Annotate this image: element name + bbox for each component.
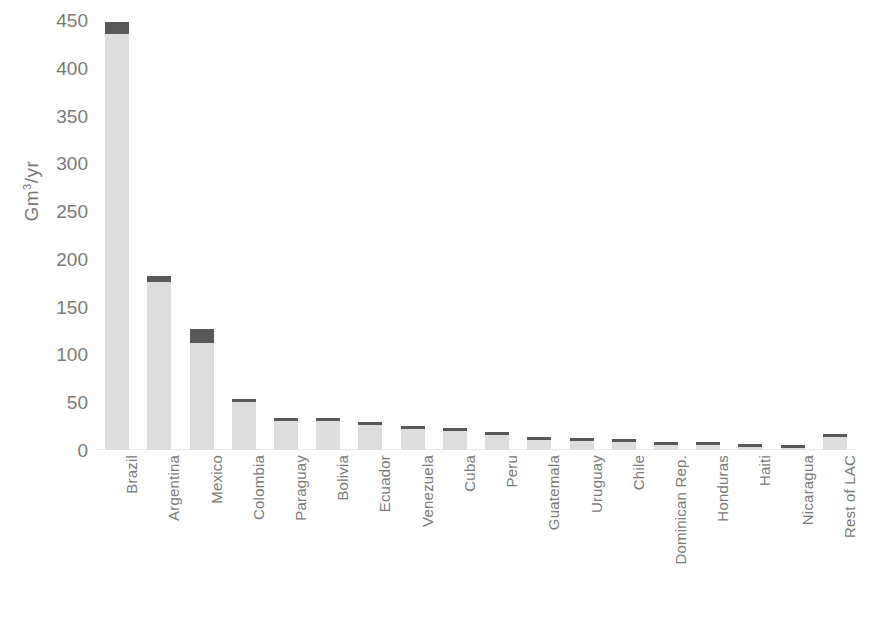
bar-segment-green-wf[interactable] [147,282,171,450]
bar-segment-green-wf[interactable] [738,447,762,450]
x-axis-tick: Cuba [461,455,478,492]
plot-area [96,20,856,450]
x-axis-tick: Nicaragua [799,455,816,525]
bar-segment-green-wf[interactable] [570,441,594,450]
x-axis-tick: Brazil [123,455,140,494]
bar-segment-green-wf[interactable] [781,448,805,450]
bar-segment-blue-wf[interactable] [738,444,762,447]
bar-group[interactable] [570,438,594,450]
x-axis-tick: Paraguay [292,455,309,521]
x-axis-tick: Haiti [756,455,773,486]
x-axis-tick: Argentina [165,455,182,521]
bar-segment-blue-wf[interactable] [570,438,594,441]
y-axis-tick: 150 [36,297,88,316]
y-axis-tick: 300 [36,154,88,173]
bar-group[interactable] [781,445,805,450]
x-axis-tick: Chile [630,455,647,490]
bar-group[interactable] [823,434,847,450]
bar-group[interactable] [612,439,636,450]
bar-segment-green-wf[interactable] [316,421,340,450]
bar-segment-green-wf[interactable] [612,442,636,450]
bar-segment-blue-wf[interactable] [232,399,256,402]
bar-segment-green-wf[interactable] [358,425,382,450]
y-axis-tick: 0 [36,441,88,460]
bar-segment-blue-wf[interactable] [612,439,636,442]
bar-segment-green-wf[interactable] [401,429,425,450]
bar-segment-blue-wf[interactable] [527,437,551,440]
x-axis-tick: Honduras [714,455,731,522]
bar-segment-blue-wf[interactable] [105,22,129,34]
x-axis-tick: Uruguay [588,455,605,513]
bar-group[interactable] [105,22,129,450]
bar-segment-green-wf[interactable] [823,437,847,450]
bar-group[interactable] [190,329,214,450]
bar-group[interactable] [696,442,720,450]
bar-segment-blue-wf[interactable] [401,426,425,429]
bar-group[interactable] [401,426,425,450]
bar-group[interactable] [485,432,509,450]
bar-group[interactable] [274,418,298,450]
caption-sliver [0,622,869,628]
bar-segment-blue-wf[interactable] [274,418,298,421]
bar-chart: Gm3/yr 450400350300250200150100500 Brazi… [0,0,869,628]
bar-group[interactable] [738,444,762,450]
x-axis-tick: Rest of LAC [841,455,858,538]
x-axis-tick: Bolivia [334,455,351,501]
y-axis-tick: 50 [36,393,88,412]
bar-segment-blue-wf[interactable] [358,422,382,425]
bar-segment-green-wf[interactable] [232,402,256,450]
x-axis-tick-labels: BrazilArgentinaMexicoColombiaParaguayBol… [96,455,856,575]
bar-segment-green-wf[interactable] [443,431,467,450]
bar-segment-green-wf[interactable] [527,440,551,451]
bar-segment-green-wf[interactable] [696,445,720,450]
x-axis-tick: Dominican Rep. [672,455,689,565]
bar-segment-blue-wf[interactable] [147,276,171,282]
y-axis-tick: 400 [36,58,88,77]
y-axis-tick: 450 [36,11,88,30]
x-axis-tick: Guatemala [545,455,562,530]
bar-segment-blue-wf[interactable] [485,432,509,435]
y-axis-tick: 200 [36,249,88,268]
y-axis-tick-labels: 450400350300250200150100500 [36,0,88,628]
bar-segment-blue-wf[interactable] [654,442,678,445]
bar-group[interactable] [443,428,467,450]
bar-segment-blue-wf[interactable] [781,445,805,448]
chart-legend [0,578,869,612]
bar-group[interactable] [654,442,678,450]
bar-segment-green-wf[interactable] [190,343,214,450]
x-axis-tick: Venezuela [419,455,436,527]
bar-group[interactable] [527,437,551,451]
x-axis-tick: Peru [503,455,520,488]
bar-segment-blue-wf[interactable] [190,329,214,343]
bar-segment-green-wf[interactable] [485,435,509,450]
bar-group[interactable] [232,399,256,450]
x-axis-tick: Colombia [250,455,267,520]
bar-segment-green-wf[interactable] [654,445,678,450]
bar-group[interactable] [316,418,340,450]
y-axis-tick: 250 [36,202,88,221]
y-axis-tick: 350 [36,106,88,125]
bar-segment-green-wf[interactable] [105,34,129,450]
bar-segment-blue-wf[interactable] [443,428,467,431]
bar-group[interactable] [147,276,171,450]
bar-segment-blue-wf[interactable] [823,434,847,437]
x-axis-tick: Ecuador [376,455,393,512]
x-axis-tick: Mexico [208,455,225,504]
bar-segment-blue-wf[interactable] [316,418,340,421]
bar-segment-blue-wf[interactable] [696,442,720,445]
bar-segment-green-wf[interactable] [274,421,298,450]
y-axis-tick: 100 [36,345,88,364]
bar-group[interactable] [358,422,382,450]
